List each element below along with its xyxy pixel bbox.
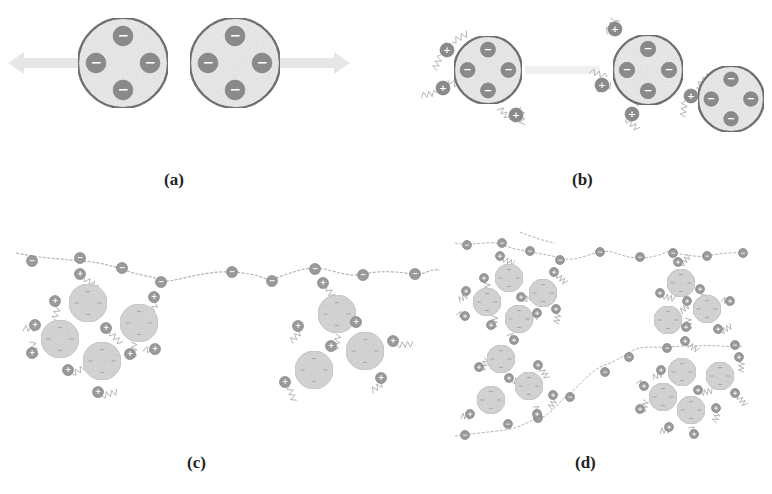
chain-charge-icon: − [636, 253, 645, 262]
svg-text:−: − [727, 73, 735, 84]
svg-text:−: − [626, 353, 631, 360]
positive-charge-icon: + [461, 312, 470, 321]
chain-charge-icon: − [498, 239, 507, 248]
svg-text:−: − [269, 276, 275, 285]
panel-label-b: (b) [572, 170, 593, 190]
svg-text:+: + [713, 404, 718, 411]
colloid-particle: −−−− [190, 18, 280, 108]
polymer-tail [422, 90, 437, 98]
floc-particle [487, 345, 515, 373]
positive-charge-icon: + [665, 423, 674, 432]
panel-b-polymer-adsorption: −−−−−−−−−−−−+++++++ [422, 18, 764, 132]
negative-charge-icon: − [501, 63, 516, 78]
positive-charge-icon: + [50, 296, 61, 307]
positive-charge-icon: + [388, 336, 399, 347]
chain-charge-icon: − [267, 276, 278, 287]
positive-charge-icon: + [683, 297, 692, 306]
svg-text:+: + [353, 317, 359, 326]
floc-particle [654, 306, 682, 334]
svg-text:+: + [476, 363, 481, 370]
positive-charge-icon: + [640, 382, 649, 391]
svg-text:+: + [152, 344, 158, 353]
positive-charge-icon: + [466, 410, 475, 419]
chain-charge-icon: − [556, 256, 565, 265]
svg-text:+: + [666, 423, 671, 430]
svg-text:+: + [657, 289, 662, 296]
svg-text:+: + [512, 109, 520, 120]
chain-charge-icon: − [310, 264, 321, 275]
negative-charge-icon: − [252, 53, 272, 73]
polymer-tail [680, 101, 687, 117]
polymer-tail [102, 389, 117, 398]
svg-text:+: + [598, 79, 606, 90]
svg-text:−: − [597, 248, 602, 255]
positive-charge-icon: + [656, 289, 665, 298]
svg-text:+: + [611, 23, 619, 34]
negative-charge-icon: − [198, 53, 218, 73]
repulsion-arrow-icon [280, 52, 350, 74]
svg-text:+: + [65, 365, 71, 374]
floc-particle [346, 332, 384, 370]
floc-particle [668, 358, 696, 386]
polymer-tail [688, 344, 700, 352]
chain-charge-icon: − [739, 249, 748, 258]
svg-text:+: + [682, 337, 687, 344]
floc-particle [477, 386, 505, 414]
positive-charge-icon: + [696, 285, 705, 294]
negative-charge-icon: − [640, 83, 655, 98]
chain-charge-icon: − [358, 270, 369, 281]
positive-charge-icon: + [475, 363, 484, 372]
svg-text:+: + [683, 323, 688, 330]
svg-text:−: − [29, 256, 35, 265]
negative-charge-icon: − [481, 42, 496, 57]
floc-particle [667, 269, 695, 297]
polymer-tail [52, 305, 60, 321]
positive-charge-icon: + [27, 348, 38, 359]
polymer-tail [548, 398, 556, 410]
positive-charge-icon: + [436, 81, 450, 95]
chain-charge-icon: − [731, 341, 740, 350]
svg-text:+: + [534, 309, 539, 316]
svg-text:+: + [695, 386, 700, 393]
svg-text:+: + [463, 287, 468, 294]
chain-charge-icon: − [27, 256, 38, 267]
floc-particle [41, 320, 79, 358]
floc-particle [83, 342, 121, 380]
svg-text:+: + [675, 258, 680, 265]
colloid-particle: −−−− [454, 36, 522, 104]
polymer-tail [557, 275, 569, 284]
positive-charge-icon: + [690, 430, 699, 439]
negative-charge-icon: − [113, 26, 133, 46]
polymer-tail [539, 368, 549, 378]
svg-text:+: + [439, 82, 447, 93]
svg-text:+: + [511, 336, 516, 343]
polymer-tail [433, 55, 442, 71]
svg-text:+: + [497, 252, 502, 259]
negative-charge-icon: − [225, 80, 245, 100]
positive-charge-icon: + [280, 377, 291, 388]
polymer-tail [397, 341, 413, 348]
svg-text:+: + [481, 274, 486, 281]
svg-text:+: + [378, 373, 384, 382]
chain-charge-icon: − [703, 252, 712, 261]
svg-text:−: − [499, 239, 504, 246]
svg-text:−: − [229, 82, 240, 97]
svg-text:−: − [464, 241, 469, 248]
svg-text:+: + [518, 293, 523, 300]
svg-text:−: − [144, 55, 155, 70]
floc-particle [495, 264, 523, 292]
svg-text:−: − [644, 84, 653, 96]
polymer-tail [452, 31, 467, 44]
panel-label-a: (a) [164, 170, 184, 190]
svg-text:−: − [567, 393, 572, 400]
colloid-particle: −−−− [698, 66, 764, 132]
positive-charge-icon: + [517, 293, 526, 302]
svg-text:−: − [462, 431, 467, 438]
svg-text:−: − [602, 368, 607, 375]
svg-text:+: + [551, 268, 556, 275]
positive-charge-icon: + [735, 353, 744, 362]
positive-charge-icon: + [462, 287, 471, 296]
positive-charge-icon: + [533, 309, 542, 318]
svg-text:−: − [312, 264, 318, 273]
chain-charge-icon: − [596, 248, 605, 257]
